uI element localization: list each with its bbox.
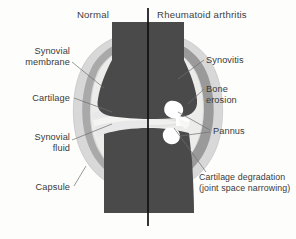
joint-comparison-figure: Normal Rheumatoid arthritis Synovial mem… bbox=[0, 0, 296, 239]
joint-diagram-svg: Normal Rheumatoid arthritis Synovial mem… bbox=[0, 0, 296, 239]
label-cartilage-degradation-line2: (joint space narrowing) bbox=[199, 183, 290, 193]
label-cartilage-degradation-line1: Cartilage degradation bbox=[199, 172, 285, 182]
label-bone-erosion-line2: erosion bbox=[206, 95, 237, 105]
label-synovitis: Synovitis bbox=[206, 55, 244, 65]
label-pannus: Pannus bbox=[213, 126, 245, 136]
label-synovial-membrane-line2: membrane bbox=[25, 57, 70, 67]
label-synovial-fluid-line2: fluid bbox=[53, 143, 70, 153]
label-synovial-membrane-line1: Synovial bbox=[34, 46, 70, 56]
label-synovial-fluid-line1: Synovial bbox=[34, 132, 70, 142]
label-bone-erosion-line1: Bone bbox=[206, 84, 228, 94]
label-capsule: Capsule bbox=[36, 182, 70, 192]
label-cartilage: Cartilage bbox=[32, 93, 70, 103]
header-rheumatoid-arthritis: Rheumatoid arthritis bbox=[157, 9, 247, 20]
header-normal: Normal bbox=[77, 9, 109, 20]
lower-bone bbox=[104, 128, 194, 213]
